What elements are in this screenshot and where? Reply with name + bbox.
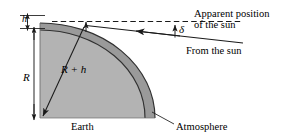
label-R: R — [23, 72, 30, 84]
label-h: h — [22, 14, 27, 25]
label-apparent-position-line2: of the sun — [194, 19, 235, 30]
label-earth: Earth — [71, 121, 94, 132]
label-r-plus-h: R + h — [61, 64, 86, 76]
refraction-diagram: h R R + h δ Apparent position of the sun… — [0, 0, 281, 136]
label-apparent-position: Apparent position of the sun — [194, 8, 270, 31]
sun-ray-arrow — [136, 31, 180, 36]
earth-region — [40, 30, 145, 118]
label-delta-angle: δ — [179, 24, 184, 36]
label-apparent-position-line1: Apparent position — [194, 8, 270, 19]
label-from-the-sun: From the sun — [186, 45, 241, 56]
label-atmosphere: Atmosphere — [176, 121, 227, 132]
